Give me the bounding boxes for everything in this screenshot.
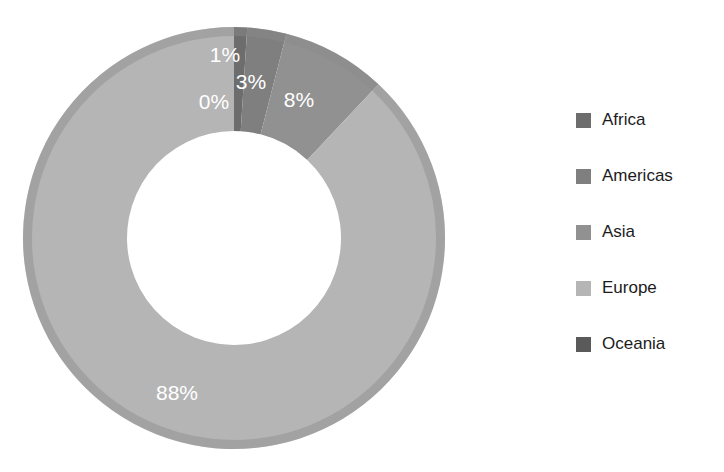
legend-item-label: Asia [602, 222, 635, 242]
legend-item-oceania[interactable]: Oceania [576, 332, 724, 356]
slice-label-americas: 3% [236, 70, 266, 93]
legend-item-americas[interactable]: Americas [576, 164, 724, 188]
legend-item-label: Oceania [602, 334, 665, 354]
donut-chart: 1%3%8%88%0% [0, 0, 520, 472]
legend-swatch-icon [576, 113, 591, 128]
chart-legend: AfricaAmericasAsiaEuropeOceania [576, 108, 724, 388]
slice-label-asia: 8% [284, 88, 314, 111]
donut-chart-svg: 1%3%8%88%0% [0, 0, 520, 472]
legend-item-africa[interactable]: Africa [576, 108, 724, 132]
legend-swatch-icon [576, 337, 591, 352]
slice-label-africa: 1% [210, 43, 240, 66]
legend-item-label: Africa [602, 110, 645, 130]
legend-swatch-icon [576, 281, 591, 296]
legend-item-europe[interactable]: Europe [576, 276, 724, 300]
legend-swatch-icon [576, 169, 591, 184]
slice-label-oceania: 0% [199, 90, 229, 113]
slice-label-europe: 88% [156, 381, 198, 404]
legend-swatch-icon [576, 225, 591, 240]
legend-item-label: Europe [602, 278, 657, 298]
legend-item-asia[interactable]: Asia [576, 220, 724, 244]
legend-item-label: Americas [602, 166, 673, 186]
chart-page: 1%3%8%88%0% AfricaAmericasAsiaEuropeOcea… [0, 0, 724, 472]
